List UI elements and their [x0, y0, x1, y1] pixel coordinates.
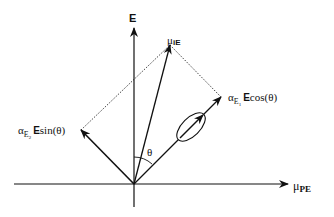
dotted-line-right: [170, 45, 221, 97]
diagram-canvas: E μPE μiE αE1Ecos(θ) αE2Esin(θ) θ: [0, 0, 334, 217]
induced-dipole-label: μiE: [167, 34, 181, 47]
vertical-axis-label: E: [129, 12, 136, 24]
angle-arc: [134, 157, 152, 164]
component-sin-vector: [81, 130, 134, 184]
component-sin-label: αE2Esin(θ): [18, 124, 66, 140]
horizontal-axis-label: μPE: [293, 179, 311, 194]
component-cos-vector: [134, 97, 221, 184]
angle-label: θ: [147, 146, 152, 158]
induced-dipole-vector: [134, 45, 170, 184]
dotted-line-left: [81, 45, 170, 130]
component-cos-label: αE1Ecos(θ): [228, 91, 277, 107]
